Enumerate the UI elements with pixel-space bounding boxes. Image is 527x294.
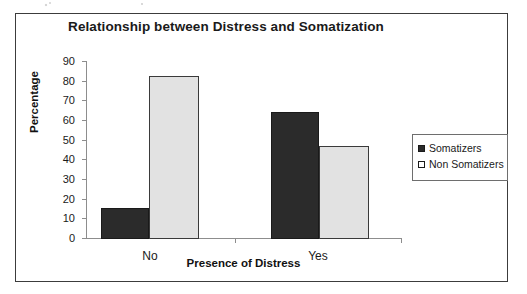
y-tick-label-40: 40	[63, 153, 75, 165]
legend-label-non-somatizers: Non Somatizers	[429, 158, 504, 170]
y-tick-10: 10	[82, 218, 86, 219]
y-tick-30: 30	[82, 179, 86, 180]
category-divider	[401, 238, 402, 243]
y-tick-90: 90	[82, 61, 86, 62]
category-divider	[235, 238, 236, 243]
plot-area: 90 80 70 60 50 40 30 20 10 0	[86, 61, 401, 238]
x-axis-title: Presence of Distress	[86, 257, 401, 269]
dark-square-icon	[418, 145, 425, 152]
y-axis-line	[86, 61, 87, 239]
light-square-icon	[418, 161, 425, 168]
y-tick-50: 50	[82, 140, 86, 141]
legend-item-somatizers[interactable]: Somatizers	[418, 142, 503, 154]
scan-artifact	[0, 0, 527, 12]
y-tick-label-70: 70	[63, 94, 75, 106]
y-tick-label-90: 90	[63, 55, 75, 67]
legend-label-somatizers: Somatizers	[429, 142, 482, 154]
y-tick-label-10: 10	[63, 212, 75, 224]
bar-somatizers-yes[interactable]	[271, 112, 319, 239]
y-axis-title: Percentage	[28, 71, 40, 133]
y-tick-40: 40	[82, 159, 86, 160]
chart-legend: Somatizers Non Somatizers	[412, 134, 508, 181]
bar-non-somatizers-no[interactable]	[149, 76, 199, 239]
legend-item-non-somatizers[interactable]: Non Somatizers	[418, 158, 503, 170]
y-tick-60: 60	[82, 120, 86, 121]
y-tick-label-60: 60	[63, 114, 75, 126]
bar-somatizers-no[interactable]	[101, 208, 149, 240]
chart-title: Relationship between Distress and Somati…	[16, 19, 436, 34]
y-tick-80: 80	[82, 81, 86, 82]
y-tick-70: 70	[82, 100, 86, 101]
y-tick-20: 20	[82, 199, 86, 200]
y-tick-label-20: 20	[63, 193, 75, 205]
y-tick-label-80: 80	[63, 75, 75, 87]
y-tick-0: 0	[82, 238, 86, 239]
y-tick-label-30: 30	[63, 173, 75, 185]
chart-frame: Relationship between Distress and Somati…	[15, 13, 508, 282]
y-tick-label-0: 0	[69, 232, 75, 244]
y-tick-label-50: 50	[63, 134, 75, 146]
bar-non-somatizers-yes[interactable]	[319, 146, 369, 239]
